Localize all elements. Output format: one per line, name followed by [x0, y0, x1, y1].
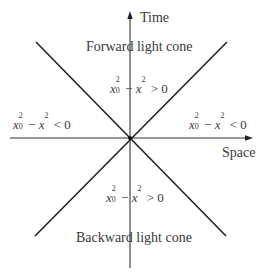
timelike-upper-formula: x20 − x2 > 0 — [110, 82, 168, 95]
light-cone-diagram: Time Space Forward light cone Backward l… — [0, 0, 268, 277]
timelike-lower-formula: x20 − x2 > 0 — [106, 191, 164, 204]
formula-relation: < 0 — [230, 117, 247, 132]
spacelike-left-formula: x20 − x2 < 0 — [13, 118, 71, 131]
formula-sup: 2 — [116, 76, 120, 84]
space-axis-label: Space — [222, 146, 255, 160]
backward-light-cone-label: Backward light cone — [76, 231, 192, 245]
formula-sub: 0 — [112, 196, 116, 204]
formula-sup: 2 — [112, 185, 116, 193]
formula-sub: 0 — [195, 123, 199, 131]
formula-sup: 2 — [137, 185, 141, 193]
formula-relation: < 0 — [54, 117, 71, 132]
origin-point — [128, 136, 132, 140]
formula-sub: 0 — [19, 123, 23, 131]
formula-sub: 0 — [116, 87, 120, 95]
formula-sup: 2 — [44, 112, 48, 120]
formula-sup: 2 — [195, 112, 199, 120]
formula-minus: − — [28, 117, 35, 132]
formula-sup: 2 — [19, 112, 23, 120]
time-axis-arrow-icon — [127, 11, 132, 19]
formula-sup: 2 — [220, 112, 224, 120]
formula-minus: − — [204, 117, 211, 132]
space-axis-arrow-icon — [245, 135, 253, 140]
formula-minus: − — [121, 190, 128, 205]
formula-sup: 2 — [141, 76, 145, 84]
formula-minus: − — [125, 81, 132, 96]
formula-relation: > 0 — [147, 190, 164, 205]
time-axis-label: Time — [140, 11, 169, 25]
formula-relation: > 0 — [151, 81, 168, 96]
forward-light-cone-label: Forward light cone — [86, 40, 193, 54]
spacelike-right-formula: x20 − x2 < 0 — [189, 118, 247, 131]
